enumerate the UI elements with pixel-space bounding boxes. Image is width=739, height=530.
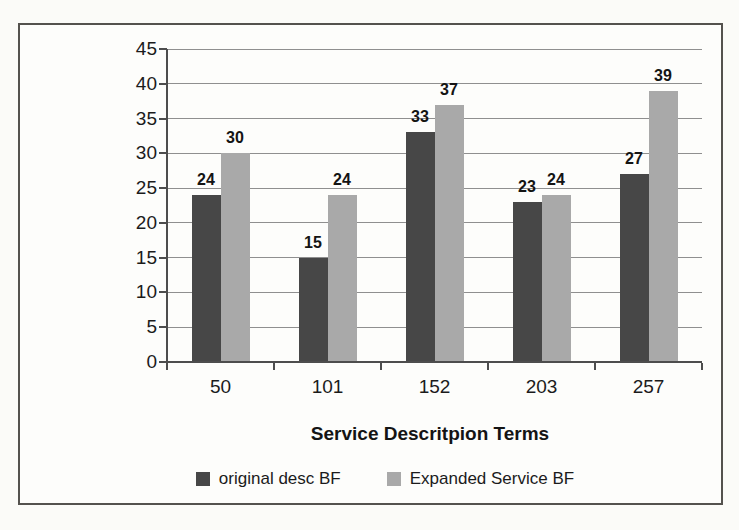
legend: original desc BFExpanded Service BF: [115, 469, 655, 489]
bar-203-series-0: [513, 202, 542, 362]
value-label-50-series-1: 30: [213, 129, 257, 147]
x-tick-mark-5: [701, 363, 703, 370]
bar-101-series-0: [299, 258, 328, 362]
bar-101-series-1: [328, 195, 357, 362]
y-tick-mark-40: [159, 83, 167, 85]
legend-label: original desc BF: [219, 469, 341, 489]
value-label-257-series-0: 27: [612, 150, 656, 168]
y-tick-label-5: 5: [115, 317, 157, 337]
y-tick-mark-10: [159, 291, 167, 293]
scanned-page: Matching Business Functions 051015202530…: [0, 0, 739, 530]
y-tick-label-0: 0: [115, 352, 157, 372]
x-tick-mark-0: [166, 363, 168, 370]
legend-swatch-icon: [387, 472, 401, 486]
x-category-label-257: 257: [609, 376, 689, 398]
bar-257-series-1: [649, 91, 678, 362]
x-category-label-203: 203: [502, 376, 582, 398]
value-label-203-series-1: 24: [534, 171, 578, 189]
x-tick-mark-1: [273, 363, 275, 370]
y-tick-label-40: 40: [115, 74, 157, 94]
y-tick-label-25: 25: [115, 178, 157, 198]
y-tick-label-10: 10: [115, 282, 157, 302]
y-tick-mark-45: [159, 48, 167, 50]
y-tick-mark-35: [159, 118, 167, 120]
legend-swatch-icon: [196, 472, 210, 486]
x-axis-title: Service Descritpion Terms: [150, 423, 710, 445]
y-tick-label-45: 45: [115, 39, 157, 59]
x-axis-line: [159, 361, 702, 363]
x-category-label-50: 50: [181, 376, 261, 398]
y-tick-label-35: 35: [115, 109, 157, 129]
bar-257-series-0: [620, 174, 649, 362]
value-label-101-series-1: 24: [320, 171, 364, 189]
y-tick-mark-25: [159, 187, 167, 189]
y-tick-label-20: 20: [115, 213, 157, 233]
bar-203-series-1: [542, 195, 571, 362]
value-label-152-series-1: 37: [427, 81, 471, 99]
value-label-257-series-1: 39: [641, 67, 685, 85]
bar-152-series-0: [406, 132, 435, 362]
y-tick-mark-15: [159, 257, 167, 259]
legend-item-1: Expanded Service BF: [387, 469, 574, 489]
legend-label: Expanded Service BF: [410, 469, 574, 489]
x-tick-mark-3: [487, 363, 489, 370]
x-tick-mark-2: [380, 363, 382, 370]
x-category-label-152: 152: [395, 376, 475, 398]
y-tick-mark-5: [159, 326, 167, 328]
bar-50-series-0: [192, 195, 221, 362]
y-axis-line: [166, 49, 168, 368]
y-tick-label-30: 30: [115, 143, 157, 163]
y-tick-label-15: 15: [115, 248, 157, 268]
chart-figure-frame: Matching Business Functions 051015202530…: [18, 23, 723, 505]
value-label-152-series-0: 33: [398, 108, 442, 126]
legend-item-0: original desc BF: [196, 469, 341, 489]
x-category-label-101: 101: [288, 376, 368, 398]
y-tick-mark-30: [159, 152, 167, 154]
y-tick-mark-20: [159, 222, 167, 224]
value-label-50-series-0: 24: [184, 171, 228, 189]
gridline-y-45: [167, 49, 702, 50]
value-label-101-series-0: 15: [291, 234, 335, 252]
bar-152-series-1: [435, 105, 464, 362]
plot-area: 051015202530354045 50101152203257 243015…: [167, 49, 702, 362]
x-tick-mark-4: [594, 363, 596, 370]
